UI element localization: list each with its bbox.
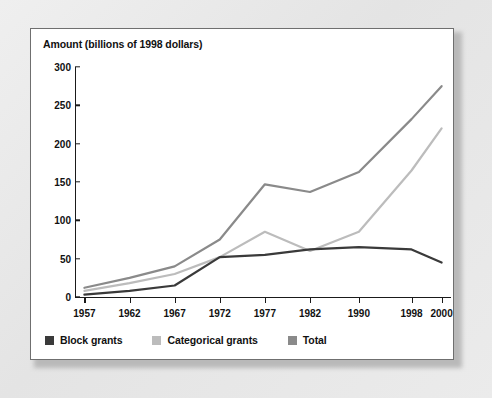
series-line-categorical-grants — [84, 128, 441, 291]
legend-label: Block grants — [60, 334, 122, 346]
series-line-total — [84, 86, 441, 288]
chart-figure-frame: Amount (billions of 1998 dollars) 050100… — [30, 28, 454, 360]
legend-swatch-icon — [288, 336, 297, 345]
chart-legend: Block grantsCategorical grantsTotal — [45, 334, 357, 346]
legend-entry: Total — [288, 334, 327, 346]
plot-area: 050100150200250300 195719621967197219771… — [31, 29, 455, 361]
legend-entry: Block grants — [45, 334, 122, 346]
legend-swatch-icon — [45, 336, 54, 345]
series-line-block-grants — [84, 247, 441, 295]
legend-label: Categorical grants — [167, 334, 257, 346]
legend-label: Total — [303, 334, 327, 346]
legend-swatch-icon — [152, 336, 161, 345]
legend-entry: Categorical grants — [152, 334, 257, 346]
series-lines — [31, 29, 455, 361]
